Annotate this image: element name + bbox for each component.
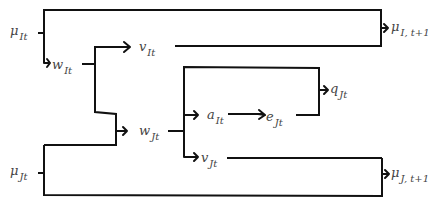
node-mu-J-t-plus-1: μJ, t+1	[391, 166, 429, 179]
flow-diagram	[0, 0, 442, 209]
node-w-It: wIt	[52, 58, 72, 71]
arrow-to-q-Jt	[319, 86, 328, 94]
arrow-to-e-Jt	[258, 110, 265, 119]
arrow-to-mu-Jt1	[382, 170, 389, 178]
connector-w-Jt-branch	[184, 67, 319, 157]
arrow-to-a-It	[184, 111, 198, 119]
arrow-to-v-Jt	[184, 153, 198, 161]
node-w-Jt: wJt	[139, 124, 159, 137]
arrow-to-mu-It1	[381, 24, 388, 32]
arrow-to-v-It	[95, 42, 130, 52]
node-e-Jt: eJt	[266, 110, 283, 123]
arrow-to-w-Jt	[116, 127, 127, 135]
node-q-Jt: qJt	[330, 82, 347, 95]
node-v-Jt: vJt	[201, 151, 217, 164]
node-a-It: aIt	[207, 108, 224, 121]
node-mu-It: μIt	[10, 24, 27, 37]
node-v-It: vIt	[139, 40, 155, 53]
node-mu-I-t-plus-1: μI, t+1	[391, 20, 430, 33]
node-mu-Jt: μJt	[10, 164, 27, 177]
